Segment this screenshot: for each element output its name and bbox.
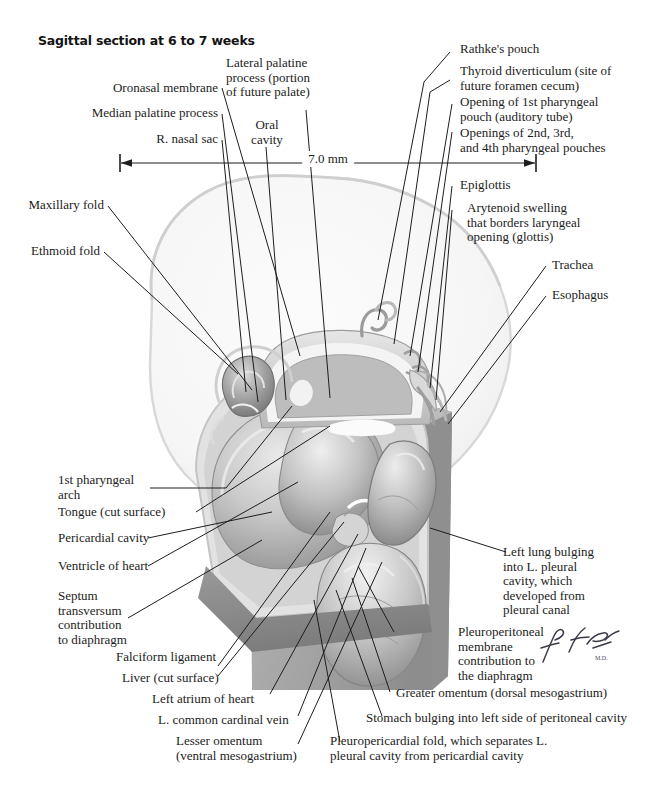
label-left-atrium-of-heart: Left atrium of heart bbox=[152, 692, 332, 707]
label-septum-transversum: Septum transversum contribution to diaph… bbox=[58, 589, 176, 647]
label-stomach-bulging: Stomach bulging into left side of perito… bbox=[366, 711, 655, 726]
label-trachea: Trachea bbox=[552, 258, 652, 273]
label-rathkes-pouch: Rathke's pouch bbox=[460, 42, 655, 57]
label-lateral-palatine-process: Lateral palatine process (portion of fut… bbox=[226, 56, 334, 100]
label-pericardial-cavity: Pericardial cavity bbox=[58, 531, 188, 546]
label-maxillary-fold: Maxillary fold bbox=[0, 198, 104, 213]
svg-text:M.D.: M.D. bbox=[595, 655, 608, 661]
page-title: Sagittal section at 6 to 7 weeks bbox=[38, 33, 255, 48]
label-epiglottis: Epiglottis bbox=[460, 178, 655, 193]
scale-bar: 7.0 mm bbox=[118, 152, 538, 174]
label-left-lung-bulging: Left lung bulging into L. pleural cavity… bbox=[503, 545, 653, 618]
scale-value: 7.0 mm bbox=[302, 151, 354, 167]
label-falciform-ligament: Falciform ligament bbox=[116, 650, 296, 665]
label-l-common-cardinal-vein: L. common cardinal vein bbox=[158, 713, 348, 728]
label-greater-omentum: Greater omentum (dorsal mesogastrium) bbox=[396, 686, 655, 701]
label-esophagus: Esophagus bbox=[552, 288, 652, 303]
label-arytenoid-swelling: Arytenoid swelling that borders laryngea… bbox=[467, 201, 655, 245]
label-liver-cut-surface: Liver (cut surface) bbox=[122, 671, 302, 686]
label-thyroid-diverticulum: Thyroid diverticulum (site of future for… bbox=[460, 64, 655, 93]
label-ethmoid-fold: Ethmoid fold bbox=[0, 244, 100, 259]
label-openings-2nd-3rd-4th-pouches: Openings of 2nd, 3rd, and 4th pharyngeal… bbox=[460, 126, 655, 155]
label-oronasal-membrane: Oronasal membrane bbox=[18, 81, 218, 96]
label-oral-cavity: Oral cavity bbox=[232, 118, 302, 147]
illustration-plate: Sagittal section at 6 to 7 weeks bbox=[0, 0, 655, 796]
label-1st-pharyngeal-arch: 1st pharyngeal arch bbox=[58, 473, 168, 502]
label-median-palatine-process: Median palatine process bbox=[18, 106, 218, 121]
artist-signature: M.D. bbox=[535, 622, 621, 668]
label-pleuropericardial-fold: Pleuropericardial fold, which separates … bbox=[330, 734, 640, 763]
label-ventricle-of-heart: Ventricle of heart bbox=[58, 559, 188, 574]
label-r-nasal-sac: R. nasal sac bbox=[18, 132, 218, 147]
label-tongue-cut-surface: Tongue (cut surface) bbox=[58, 505, 198, 520]
label-opening-1st-pharyngeal-pouch: Opening of 1st pharyngeal pouch (auditor… bbox=[460, 95, 655, 124]
